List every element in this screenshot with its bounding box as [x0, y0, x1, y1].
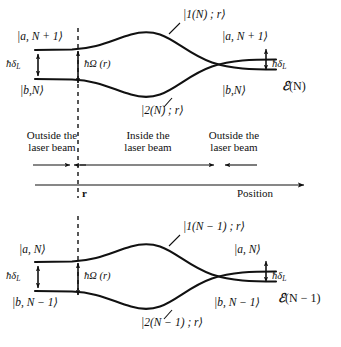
region-label-left: Outside the laser beam: [14, 130, 90, 154]
lower-panel-left-lower-state: |b, N − 1⟩: [12, 296, 58, 308]
lower-panel-curve-1-label: |1(N − 1) ; r⟩: [183, 220, 245, 232]
position-axis-tick-label: r: [82, 188, 87, 200]
upper-panel-right-lower-state: |b,N⟩: [222, 84, 246, 96]
region-label-right: Outside the laser beam: [196, 130, 272, 154]
lower-panel-left-upper-state: |a, N⟩: [19, 243, 46, 255]
region-label-middle-line2: laser beam: [110, 142, 186, 154]
upper-panel-left-upper-state: |a, N + 1⟩: [17, 30, 63, 42]
lower-panel-curve-2-label: |2(N − 1) ; r⟩: [141, 316, 203, 328]
upper-panel-left-lower-state: |b,N⟩: [20, 84, 44, 96]
upper-panel-right-splitting-label: ħδL: [272, 58, 286, 71]
lower-panel-manifold-label: ℰ(N − 1): [278, 292, 320, 305]
lower-panel-right-lower-state: |b, N − 1⟩: [214, 296, 260, 308]
upper-panel-curve-2-label: |2(N) ; r⟩: [141, 104, 184, 116]
figure-canvas: |1(N) ; r⟩ |a, N + 1⟩ |b,N⟩ |a, N + 1⟩ |…: [0, 0, 341, 347]
lower-panel-right-splitting-label: ħδL: [272, 270, 286, 283]
upper-panel-curve-1-label: |1(N) ; r⟩: [183, 8, 226, 20]
region-label-middle: Inside the laser beam: [110, 130, 186, 154]
lower-panel-center-splitting-label: ħΩ (r): [84, 270, 111, 281]
lower-panel-right-upper-state: |a, N⟩: [234, 243, 261, 255]
upper-panel-manifold-label: ℰ(N): [282, 80, 306, 93]
upper-panel-right-upper-state: |a, N + 1⟩: [222, 30, 268, 42]
region-label-right-line2: laser beam: [196, 142, 272, 154]
lower-curve1-leader: [169, 235, 180, 246]
position-axis-label: Position: [237, 188, 273, 200]
upper-panel-center-splitting-label: ħΩ (r): [84, 58, 111, 69]
upper-panel-left-splitting-label: ħδL: [6, 58, 20, 71]
upper-curve1-leader: [169, 23, 180, 34]
lower-panel-left-splitting-label: ħδL: [6, 270, 20, 283]
region-label-left-line2: laser beam: [14, 142, 90, 154]
